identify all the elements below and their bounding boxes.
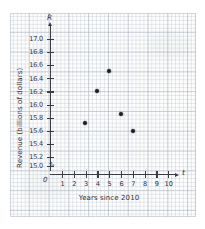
origin-label: 0 [43, 176, 47, 184]
scatter-plot-screenshot: R t ∿ 0 17.0 16.8 16.6 16.4 16.2 16.0 15… [0, 0, 205, 229]
data-point [131, 129, 135, 133]
y-axis-tick [47, 166, 54, 167]
x-axis-arrow-icon [175, 173, 179, 177]
y-axis-tick-label: 17.0 [19, 35, 43, 44]
data-point [107, 69, 111, 73]
x-axis-tick-label: 1 [58, 180, 68, 188]
x-axis-tick-label: 10 [164, 180, 174, 188]
x-axis-tick [62, 171, 63, 178]
y-axis-arrow-icon [48, 22, 52, 26]
y-axis-tick [47, 131, 54, 132]
x-axis-tick-label: 2 [69, 180, 79, 188]
data-point [119, 112, 123, 116]
y-axis-variable-label: R [47, 13, 52, 22]
x-axis-tick [133, 171, 134, 178]
x-axis-tick [156, 171, 157, 178]
plot-area: R t ∿ 0 17.0 16.8 16.6 16.4 16.2 16.0 15… [0, 0, 205, 229]
y-axis-title: Revenue (billions of dollars) [16, 68, 24, 168]
x-axis-tick-label: 7 [128, 180, 138, 188]
x-axis-tick-label: 4 [93, 180, 103, 188]
y-axis-tick [47, 78, 54, 79]
y-axis-line [50, 26, 51, 171]
data-point [95, 89, 99, 93]
axis-break-icon: ∿ [47, 159, 56, 169]
x-axis-tick-label: 8 [140, 180, 150, 188]
y-axis-tick [47, 157, 54, 158]
x-axis-title: Years since 2010 [49, 194, 169, 202]
y-axis-tick [47, 52, 54, 53]
x-axis-tick-label: 5 [105, 180, 115, 188]
x-axis-tick-label: 3 [81, 180, 91, 188]
x-axis-variable-label: t [182, 168, 185, 177]
x-axis-tick [121, 171, 122, 178]
x-axis-tick [86, 171, 87, 178]
x-axis-tick [97, 171, 98, 178]
x-axis-tick [109, 171, 110, 178]
y-axis-tick [47, 105, 54, 106]
y-axis-tick [47, 118, 54, 119]
x-axis-tick-label: 9 [152, 180, 162, 188]
x-axis-tick [168, 171, 169, 178]
x-axis-tick [145, 171, 146, 178]
y-axis-tick [47, 39, 54, 40]
data-point [83, 121, 87, 125]
y-axis-tick [47, 65, 54, 66]
x-axis-tick [74, 171, 75, 178]
y-axis-tick [47, 91, 54, 92]
y-axis-tick [47, 144, 54, 145]
x-axis-tick-label: 6 [117, 180, 127, 188]
y-axis-tick-label: 16.8 [19, 48, 43, 57]
